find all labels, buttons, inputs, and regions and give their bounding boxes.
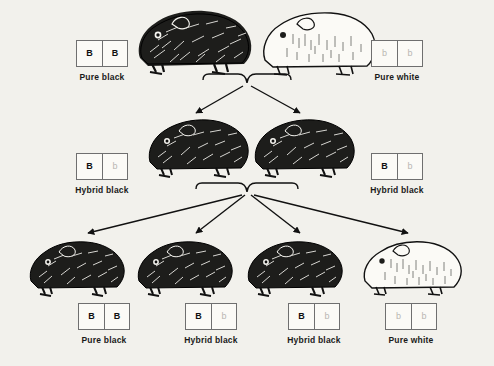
guinea-pig-hybrid-black-f1-right xyxy=(246,112,360,184)
allele-cell: b xyxy=(372,41,397,66)
allele-cell: B xyxy=(186,304,211,329)
allele-cell: b xyxy=(397,154,422,179)
allele-cell: B xyxy=(77,154,102,179)
arrow-to-f1-right xyxy=(251,86,300,113)
allele-cell: b xyxy=(386,304,411,329)
genotype-box-pure-white-parent: b b xyxy=(371,40,423,67)
allele-cell: B xyxy=(372,154,397,179)
guinea-pig-hybrid-black-f2-a xyxy=(130,234,238,302)
guinea-pig-hybrid-black-f1-left xyxy=(140,112,254,184)
genotype-box-hybrid-black-f2-a: B b xyxy=(185,303,237,330)
arrow-to-f2-1 xyxy=(88,195,242,233)
genotype-box-hybrid-black-f2-b: B b xyxy=(288,303,340,330)
allele-cell: B xyxy=(104,304,129,329)
allele-cell: b xyxy=(314,304,339,329)
f1-brace xyxy=(196,183,298,192)
genotype-box-hybrid-black-f1-right: B b xyxy=(371,153,423,180)
allele-cell: b xyxy=(211,304,236,329)
caption-pure-white-f2: Pure white xyxy=(361,335,461,345)
arrow-to-f2-2 xyxy=(196,195,245,233)
arrow-to-f2-3 xyxy=(251,195,300,233)
guinea-pig-pure-white-f2 xyxy=(355,234,467,302)
allele-cell: b xyxy=(102,154,127,179)
caption-hybrid-black-f2-a: Hybrid black xyxy=(161,335,261,345)
guinea-pig-pure-black-parent xyxy=(128,2,258,82)
allele-cell: B xyxy=(102,41,127,66)
genotype-box-pure-black-parent: B B xyxy=(76,40,128,67)
allele-cell: B xyxy=(79,304,104,329)
arrow-to-f2-4 xyxy=(254,195,408,233)
caption-pure-black-f2: Pure black xyxy=(54,335,154,345)
genetics-diagram: B B Pure black b b Pure white xyxy=(0,0,494,366)
guinea-pig-hybrid-black-f2-b xyxy=(240,234,348,302)
arrow-to-f1-left xyxy=(196,86,243,113)
allele-cell: b xyxy=(397,41,422,66)
guinea-pig-pure-black-f2 xyxy=(22,234,130,302)
genotype-box-pure-white-f2: b b xyxy=(385,303,437,330)
genotype-box-pure-black-f2: B B xyxy=(78,303,130,330)
allele-cell: B xyxy=(289,304,314,329)
caption-pure-black-parent: Pure black xyxy=(52,72,152,82)
caption-hybrid-black-f2-b: Hybrid black xyxy=(264,335,364,345)
allele-cell: b xyxy=(411,304,436,329)
caption-pure-white-parent: Pure white xyxy=(347,72,447,82)
allele-cell: B xyxy=(77,41,102,66)
caption-hybrid-black-f1-right: Hybrid black xyxy=(347,185,447,195)
caption-hybrid-black-f1-left: Hybrid black xyxy=(52,185,152,195)
genotype-box-hybrid-black-f1-left: B b xyxy=(76,153,128,180)
